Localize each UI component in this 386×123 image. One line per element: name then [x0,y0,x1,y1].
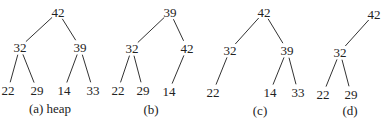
tree-edge [26,17,52,41]
tree-node: 14 [264,85,278,100]
tree-edge [82,55,90,83]
tree-edge [138,18,164,43]
tree-edge [273,57,284,84]
tree-edge [62,19,75,40]
tree-edge [23,54,34,82]
heap-diagram: 42323922291433(a) heap 393242222914(b) 4… [0,0,386,123]
tree-edge [345,20,368,46]
tree-b: 393242222914(b) [112,5,194,117]
tree-node: 33 [87,83,100,98]
tree-node: 42 [52,5,65,20]
tree-edge [67,55,77,83]
tree-node: 42 [258,5,271,20]
tree-edge [342,60,349,87]
tree-node: 39 [164,5,177,20]
figure-caption: (a) heap [29,101,71,116]
figure-caption: (c) [253,103,267,118]
tree-node: 29 [137,83,150,98]
tree-node: 29 [345,87,358,102]
tree-edge [10,55,18,83]
tree-node: 39 [281,43,294,58]
tree-a-heap: 42323922291433(a) heap [2,5,100,116]
tree-edge [121,56,130,83]
tree-node: 14 [58,83,72,98]
tree-node: 22 [317,87,330,102]
tree-edge [235,18,258,44]
tree-edge [268,19,283,43]
tree-edge [216,57,227,84]
tree-node: 33 [292,85,305,100]
figure-caption: (d) [342,103,357,118]
tree-edge [172,55,184,83]
tree-node: 22 [207,85,220,100]
tree-node: 32 [126,41,139,56]
tree-node: 14 [163,84,177,99]
tree-node: 42 [181,41,194,56]
tree-c: 423239221433(c) [207,5,305,118]
tree-node: 32 [224,43,237,58]
tree-node: 22 [112,83,125,98]
tree-edge [289,58,296,85]
tree-node: 29 [31,83,44,98]
tree-node: 39 [74,40,87,55]
tree-d: 42322229(d) [317,7,381,118]
tree-edge [173,19,183,41]
tree-node: 42 [368,7,381,22]
figure-caption: (b) [143,102,158,117]
tree-node: 22 [2,83,15,98]
tree-edge [134,56,141,83]
tree-edge [326,59,337,86]
tree-node: 32 [334,45,347,60]
tree-node: 32 [14,40,27,55]
